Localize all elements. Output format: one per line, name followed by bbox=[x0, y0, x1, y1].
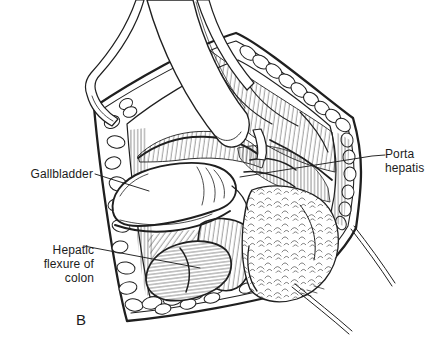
figure-panel: Gallbladder Porta hepatis Hepatic flexur… bbox=[0, 0, 434, 346]
label-gallbladder: Gallbladder bbox=[14, 168, 93, 181]
panel-letter: B bbox=[76, 311, 86, 328]
label-porta-hepatis: Porta hepatis bbox=[385, 147, 433, 175]
omentum-drawing bbox=[242, 186, 338, 302]
label-hepatic-flexure-of-colon: Hepatic flexure of colon bbox=[32, 243, 94, 285]
